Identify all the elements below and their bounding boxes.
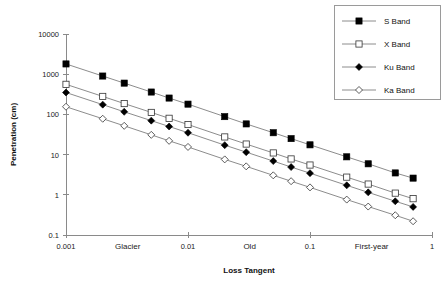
x-tick-label: 0.1 [305, 242, 315, 251]
y-tick-label: 10000 [38, 30, 59, 39]
region-label-first-year: First-year [355, 242, 389, 251]
series-line [66, 93, 413, 207]
marker-filled-square [344, 154, 350, 160]
marker-filled-square [121, 80, 127, 86]
legend-label: S Band [384, 17, 410, 26]
marker-filled-diamond [243, 149, 250, 156]
marker-filled-diamond [343, 182, 350, 189]
marker-filled-diamond [121, 108, 128, 115]
legend-label: Ku Band [384, 63, 415, 72]
marker-open-square [185, 121, 191, 127]
marker-open-square [288, 156, 294, 162]
marker-open-square [356, 41, 362, 47]
penetration-vs-loss-tangent-chart: 0.11101001000100000.0010.010.11GlacierOl… [0, 0, 443, 284]
marker-open-diamond [185, 143, 192, 150]
marker-open-square [243, 141, 249, 147]
marker-open-diamond [166, 137, 173, 144]
marker-filled-diamond [270, 158, 277, 165]
marker-filled-diamond [166, 123, 173, 130]
y-tick-label: 1 [55, 191, 59, 200]
marker-open-diamond [221, 156, 228, 163]
legend-label: X Band [384, 40, 410, 49]
region-label-glacier: Glacier [115, 242, 141, 251]
marker-filled-square [185, 101, 191, 107]
marker-filled-diamond [307, 170, 314, 177]
marker-open-square [121, 100, 127, 106]
marker-filled-diamond [365, 189, 372, 196]
marker-open-square [410, 196, 416, 202]
marker-open-square [392, 190, 398, 196]
x-tick-label: 0.01 [181, 242, 196, 251]
marker-open-square [63, 81, 69, 87]
marker-filled-diamond [221, 142, 228, 149]
marker-filled-square [410, 175, 416, 181]
marker-filled-diamond [99, 101, 106, 108]
y-tick-label: 100 [46, 110, 59, 119]
marker-open-diamond [365, 203, 372, 210]
marker-filled-diamond [288, 164, 295, 171]
marker-filled-diamond [392, 198, 399, 205]
marker-open-diamond [288, 178, 295, 185]
marker-open-diamond [99, 115, 106, 122]
marker-open-diamond [243, 163, 250, 170]
marker-open-diamond [121, 122, 128, 129]
marker-open-square [100, 93, 106, 99]
marker-open-diamond [343, 196, 350, 203]
marker-filled-square [365, 161, 371, 167]
marker-filled-square [307, 142, 313, 148]
marker-filled-diamond [63, 89, 70, 96]
marker-filled-diamond [148, 117, 155, 124]
marker-filled-square [148, 89, 154, 95]
x-tick-label: 0.001 [57, 242, 76, 251]
marker-open-diamond [307, 184, 314, 191]
y-tick-label: 10 [51, 151, 59, 160]
y-axis-title: Penetration (cm) [9, 103, 18, 166]
marker-open-diamond [148, 131, 155, 138]
marker-open-square [307, 162, 313, 168]
x-tick-label: 1 [430, 242, 434, 251]
marker-filled-square [222, 114, 228, 120]
legend-label: Ka Band [384, 86, 415, 95]
marker-open-diamond [410, 218, 417, 225]
marker-filled-square [243, 121, 249, 127]
marker-filled-square [392, 170, 398, 176]
region-label-old: Old [243, 242, 255, 251]
legend: S BandX BandKu BandKa Band [334, 5, 440, 99]
marker-open-square [222, 134, 228, 140]
marker-filled-square [166, 95, 172, 101]
marker-filled-square [63, 61, 69, 67]
series-ku-band [63, 89, 417, 210]
marker-open-square [270, 150, 276, 156]
y-tick-label: 0.1 [49, 231, 59, 240]
marker-filled-square [100, 73, 106, 79]
series-line [66, 107, 413, 221]
marker-open-square [148, 109, 154, 115]
marker-open-square [344, 174, 350, 180]
marker-filled-square [270, 130, 276, 136]
marker-open-diamond [63, 103, 70, 110]
marker-filled-square [356, 18, 362, 24]
chart-page: 0.11101001000100000.0010.010.11GlacierOl… [0, 0, 443, 284]
y-tick-label: 1000 [42, 70, 59, 79]
marker-open-square [365, 181, 371, 187]
marker-filled-diamond [185, 129, 192, 136]
x-axis-title: Loss Tangent [223, 266, 275, 275]
marker-open-square [166, 115, 172, 121]
region-annotations: GlacierOldFirst-year [115, 242, 389, 251]
marker-filled-diamond [410, 203, 417, 210]
marker-open-diamond [270, 172, 277, 179]
marker-filled-square [288, 136, 294, 142]
series-line [66, 84, 413, 198]
marker-open-diamond [392, 212, 399, 219]
